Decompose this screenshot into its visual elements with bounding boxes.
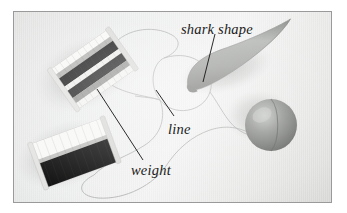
label-line: line bbox=[168, 121, 191, 138]
leader-weight bbox=[97, 89, 143, 160]
leader-line bbox=[156, 90, 174, 116]
label-shark-shape: shark shape bbox=[181, 21, 253, 38]
figure-root: shark shape line weight bbox=[0, 0, 347, 213]
photo-frame: shark shape line weight bbox=[13, 11, 332, 203]
label-weight: weight bbox=[131, 162, 171, 179]
leader-line-layer bbox=[14, 12, 331, 202]
leader-shark-shape bbox=[203, 34, 215, 82]
photograph: shark shape line weight bbox=[14, 12, 331, 202]
